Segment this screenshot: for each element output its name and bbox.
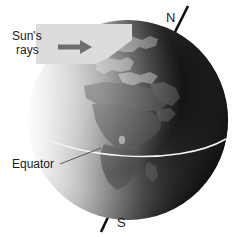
equator-label: Equator bbox=[12, 157, 54, 171]
sun-rays-label-line1: Sun's bbox=[12, 29, 42, 43]
sun-rays-label-line2: rays bbox=[16, 43, 39, 57]
earth-sunlight-diagram: Sun's rays N S Equator bbox=[0, 0, 243, 237]
south-pole-label: S bbox=[117, 215, 126, 230]
north-pole-label: N bbox=[166, 10, 175, 25]
diagram-canvas: Sun's rays N S Equator bbox=[0, 0, 243, 237]
